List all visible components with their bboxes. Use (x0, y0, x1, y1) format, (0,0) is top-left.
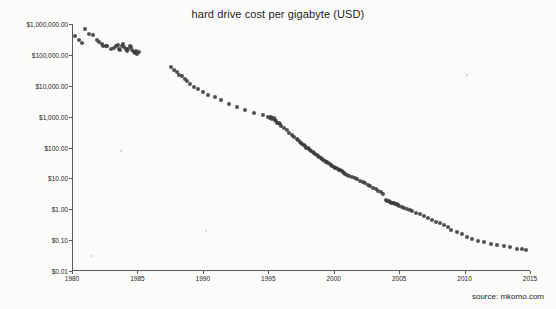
y-tick-mark (69, 55, 72, 56)
data-point (465, 235, 469, 239)
y-tick-mark (69, 24, 72, 25)
chart-title: hard drive cost per gigabyte (USD) (0, 8, 556, 20)
plot-area: $0.01$0.10$1.00$10.00$100.00$1,000.00$10… (72, 24, 530, 271)
chart-container: hard drive cost per gigabyte (USD) $0.01… (0, 0, 556, 309)
scan-speck (90, 255, 92, 257)
y-tick-label: $10,000.00 (35, 82, 68, 89)
y-tick-label: $1,000,000.00 (26, 21, 68, 28)
x-tick-label: 1995 (261, 275, 275, 282)
y-tick-label: $100.00 (45, 144, 69, 151)
scan-speck (330, 70, 331, 71)
source-annotation: source: mkomo.com (472, 292, 544, 301)
x-tick-mark (203, 271, 204, 274)
x-tick-mark (399, 271, 400, 274)
data-point (243, 108, 247, 112)
x-tick-label: 2005 (392, 275, 406, 282)
data-point (515, 247, 519, 251)
data-point (196, 87, 200, 91)
x-tick-mark (334, 271, 335, 274)
data-point (201, 90, 205, 94)
data-point (455, 230, 459, 234)
data-point (489, 242, 493, 246)
x-tick-label: 2010 (457, 275, 471, 282)
x-tick-mark (268, 271, 269, 274)
data-point (524, 248, 528, 252)
data-point (476, 239, 480, 243)
y-tick-mark (69, 178, 72, 179)
data-point (460, 232, 464, 236)
data-point (227, 102, 231, 106)
y-tick-mark (69, 86, 72, 87)
scan-speck (466, 74, 468, 76)
y-tick-mark (69, 209, 72, 210)
y-tick-label: $1.00 (52, 206, 68, 213)
y-tick-label: $100,000.00 (32, 51, 68, 58)
x-tick-label: 2015 (523, 275, 537, 282)
scan-speck (205, 230, 207, 232)
y-tick-label: $10.00 (48, 175, 68, 182)
scan-speck (120, 150, 122, 152)
y-tick-mark (69, 117, 72, 118)
data-point (73, 34, 77, 38)
data-point (83, 27, 87, 31)
y-tick-label: $0.01 (52, 268, 68, 275)
x-tick-label: 1985 (130, 275, 144, 282)
x-tick-mark (137, 271, 138, 274)
y-tick-mark (69, 148, 72, 149)
x-tick-mark (72, 271, 73, 274)
x-tick-label: 2000 (326, 275, 340, 282)
x-tick-label: 1980 (65, 275, 79, 282)
x-tick-mark (530, 271, 531, 274)
y-tick-mark (69, 240, 72, 241)
y-tick-label: $0.10 (52, 237, 68, 244)
y-tick-label: $1,000.00 (39, 113, 68, 120)
x-tick-mark (465, 271, 466, 274)
x-tick-label: 1990 (196, 275, 210, 282)
data-point (252, 111, 256, 115)
